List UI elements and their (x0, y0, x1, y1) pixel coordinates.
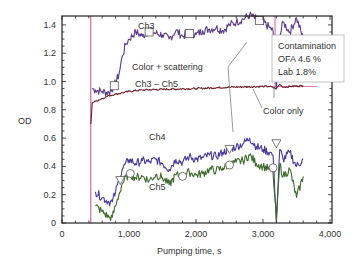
legend-line-lab: Lab 1.8% (278, 67, 316, 77)
label-color-scattering: Color + scattering (132, 62, 203, 72)
label-ch4: Ch4 (149, 132, 166, 142)
y-tick-label: 0.2 (43, 190, 56, 200)
x-tick-label: 3,000 (252, 229, 275, 239)
od-vs-pumping-time-chart: 01,0002,0003,0004,00000.20.40.60.81.01.2… (0, 0, 362, 267)
label-color-only: Color only (263, 106, 304, 116)
label-ch5: Ch5 (149, 182, 166, 192)
contamination-legend-box: Contamination OFA 4.6 % Lab 1.8% (272, 35, 344, 82)
y-axis-title: OD (18, 116, 32, 126)
y-tick-label: 0.6 (43, 133, 56, 143)
square-marker (256, 17, 264, 25)
circle-marker (179, 172, 187, 180)
y-tick-label: 0.8 (43, 105, 56, 115)
x-axis-title: Pumping time, s (157, 246, 222, 256)
y-tick-label: 1.2 (43, 48, 56, 58)
label-ch3-ch5: Ch3 – Ch5 (135, 79, 178, 89)
x-tick-label: 1,000 (118, 229, 141, 239)
circle-marker (126, 169, 134, 177)
circle-marker (269, 164, 277, 172)
y-tick-label: 1.4 (43, 20, 56, 30)
x-tick-label: 2,000 (185, 229, 208, 239)
x-tick-label: 4,000 (319, 229, 342, 239)
square-marker (110, 82, 118, 90)
y-tick-label: 0.4 (43, 161, 56, 171)
y-tick-label: 0 (51, 218, 56, 228)
square-marker (185, 29, 193, 37)
legend-line-ofa: OFA 4.6 % (278, 54, 321, 64)
label-ch3: Ch3 (138, 21, 155, 31)
legend-line-contamination: Contamination (278, 41, 336, 51)
x-tick-label: 0 (59, 229, 64, 239)
y-tick-label: 1.0 (43, 77, 56, 87)
circle-marker (226, 161, 234, 169)
